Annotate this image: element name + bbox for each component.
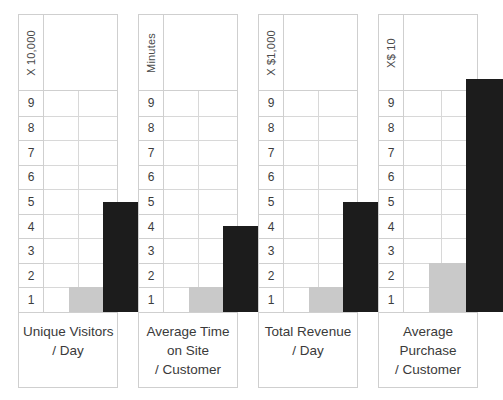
y-axis-tick-label: 2 [19,263,43,288]
y-axis-tick-column-average-time-on-site: 987654321 [139,91,164,312]
gridline-horizontal [284,165,357,166]
caption-line: Purchase [383,341,473,360]
y-axis-tick-label: 3 [259,238,283,263]
panel-caption-total-revenue: Total Revenue/ Day [259,313,357,387]
y-axis-tick-label: 6 [379,165,403,190]
y-axis-tick-label: 4 [379,214,403,239]
y-axis-tick-label: 1 [379,287,403,312]
caption-line: on Site [143,341,233,360]
y-axis-tick-label: 4 [139,214,163,239]
y-axis-tick-label: 5 [379,189,403,214]
y-axis-tick-label: 2 [379,263,403,288]
chart-panel-total-revenue: X $1,000987654321Total Revenue/ Day [258,14,358,388]
gridline-horizontal [164,116,237,117]
y-axis-tick-label: 8 [259,116,283,141]
gridline-horizontal [44,165,117,166]
caption-line: Total Revenue [263,322,353,341]
gridline-vertical [318,91,319,312]
bar-before-average-time-on-site [189,287,223,312]
y-axis-tick-column-unique-visitors: 987654321 [19,91,44,312]
bar-before-total-revenue [309,287,343,312]
bar-after-total-revenue [343,202,382,313]
chart-panel-average-time-on-site: Minutes987654321Average Timeon Site/ Cus… [138,14,238,388]
bar-after-average-time-on-site [223,226,262,312]
grid-field-average-purchase [404,91,477,312]
y-axis-unit-label: X 10,000 [25,30,37,76]
panel-caption-unique-visitors: Unique Visitors/ Day [19,313,117,387]
y-axis-tick-label: 4 [19,214,43,239]
y-axis-tick-column-average-purchase: 987654321 [379,91,404,312]
y-axis-tick-label: 3 [19,238,43,263]
gridline-horizontal [164,140,237,141]
plot-area-average-time-on-site: Minutes987654321 [139,15,237,313]
y-axis-tick-label: 9 [379,91,403,116]
gridline-vertical [198,91,199,312]
bar-before-unique-visitors [69,287,103,312]
chart-panel-average-purchase: X$ 10987654321AveragePurchase/ Customer [378,14,478,388]
gridline-vertical [78,91,79,312]
bar-after-unique-visitors [103,202,142,313]
y-axis-tick-label: 5 [139,189,163,214]
y-axis-tick-label: 8 [139,116,163,141]
plot-area-total-revenue: X $1,000987654321 [259,15,357,313]
y-axis-unit-label: X $1,000 [265,30,277,76]
caption-line: Average [383,322,473,341]
y-axis-unit-label: Minutes [145,33,157,73]
bar-before-average-purchase [429,263,466,312]
y-axis-unit-label: X$ 10 [385,38,397,68]
gridline-horizontal [44,116,117,117]
caption-line: / Day [23,341,113,360]
y-axis-tick-label: 2 [259,263,283,288]
y-axis-tick-label: 3 [139,238,163,263]
y-axis-tick-label: 9 [259,91,283,116]
y-axis-tick-label: 7 [139,140,163,165]
gridline-horizontal [284,189,357,190]
caption-line: / Customer [143,360,233,379]
y-axis-tick-label: 6 [19,165,43,190]
y-axis-tick-label: 8 [19,116,43,141]
y-axis-tick-label: 8 [379,116,403,141]
y-axis-unit-cell-unique-visitors: X 10,000 [19,15,44,91]
y-axis-tick-label: 5 [19,189,43,214]
panel-caption-average-purchase: AveragePurchase/ Customer [379,313,477,387]
plot-header-spacer [44,15,117,91]
plot-header-spacer [284,15,357,91]
chart-panel-unique-visitors: X 10,000987654321Unique Visitors/ Day [18,14,118,388]
y-axis-unit-cell-average-time-on-site: Minutes [139,15,164,91]
caption-line: Average Time [143,322,233,341]
y-axis-tick-label: 4 [259,214,283,239]
plot-header-spacer [164,15,237,91]
plot-area-unique-visitors: X 10,000987654321 [19,15,117,313]
gridline-horizontal [164,165,237,166]
y-axis-tick-column-total-revenue: 987654321 [259,91,284,312]
y-axis-unit-cell-average-purchase: X$ 10 [379,15,404,91]
plot-area-average-purchase: X$ 10987654321 [379,15,477,313]
caption-line: / Day [263,341,353,360]
y-axis-tick-label: 1 [259,287,283,312]
caption-line: Unique Visitors [23,322,113,341]
y-axis-tick-label: 1 [139,287,163,312]
y-axis-unit-cell-total-revenue: X $1,000 [259,15,284,91]
y-axis-tick-label: 9 [19,91,43,116]
y-axis-tick-label: 7 [379,140,403,165]
y-axis-tick-label: 5 [259,189,283,214]
grid-field-total-revenue [284,91,357,312]
gridline-horizontal [164,189,237,190]
y-axis-tick-label: 9 [139,91,163,116]
y-axis-tick-label: 6 [139,165,163,190]
gridline-horizontal [44,140,117,141]
grid-field-unique-visitors [44,91,117,312]
y-axis-tick-label: 3 [379,238,403,263]
panel-caption-average-time-on-site: Average Timeon Site/ Customer [139,313,237,387]
gridline-horizontal [44,189,117,190]
y-axis-tick-label: 1 [19,287,43,312]
y-axis-tick-label: 6 [259,165,283,190]
caption-line: / Customer [383,360,473,379]
gridline-horizontal [164,214,237,215]
gridline-horizontal [284,116,357,117]
grid-field-average-time-on-site [164,91,237,312]
y-axis-tick-label: 7 [19,140,43,165]
y-axis-tick-label: 7 [259,140,283,165]
gridline-horizontal [284,140,357,141]
